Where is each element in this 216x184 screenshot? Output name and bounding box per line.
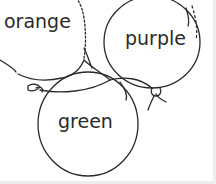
purple-balloon-label: purple: [125, 29, 186, 48]
balloon-illustration: orange purple green: [0, 0, 216, 184]
orange-balloon-outline: [0, 60, 16, 72]
image-border-bottom: [0, 181, 216, 184]
green-balloon-label: green: [58, 112, 113, 131]
image-border-right: [213, 0, 216, 184]
orange-balloon-label: orange: [4, 12, 71, 31]
